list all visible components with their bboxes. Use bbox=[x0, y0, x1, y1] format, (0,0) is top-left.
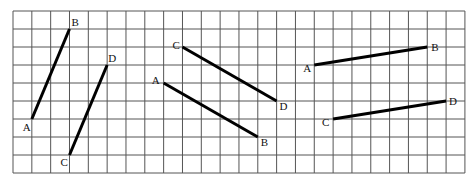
point-label-D: D bbox=[449, 95, 457, 107]
point-label-D: D bbox=[108, 52, 116, 64]
point-label-B: B bbox=[261, 136, 268, 148]
grid-lines bbox=[13, 11, 465, 173]
grid-diagram: ABCDCDABABCD bbox=[0, 0, 475, 184]
point-label-B: B bbox=[431, 41, 438, 53]
point-label-D: D bbox=[280, 100, 288, 112]
point-label-A: A bbox=[303, 62, 311, 74]
point-label-A: A bbox=[152, 74, 160, 86]
point-label-A: A bbox=[23, 121, 31, 133]
segment-AB bbox=[164, 83, 258, 137]
point-label-B: B bbox=[71, 16, 78, 28]
point-label-C: C bbox=[172, 39, 179, 51]
point-label-C: C bbox=[60, 156, 67, 168]
segment-CD bbox=[182, 47, 276, 101]
point-label-C: C bbox=[322, 116, 329, 128]
